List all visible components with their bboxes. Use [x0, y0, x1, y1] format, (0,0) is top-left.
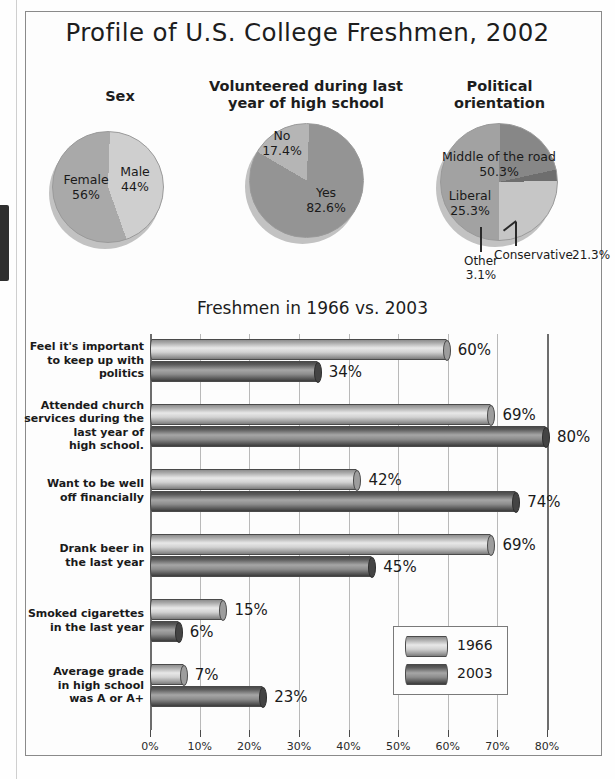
- bar-2003-2: [150, 491, 517, 512]
- pie-pol-slice-middle: Middle of the road 50.3%: [437, 149, 561, 179]
- pie-sex-female-label: Female: [57, 172, 115, 187]
- x-axis-tick-label: 30%: [287, 740, 311, 753]
- gridline: [249, 334, 250, 730]
- pie-vol-slice-yes: Yes 82.6%: [300, 185, 352, 215]
- bar-2003-5: [150, 686, 264, 707]
- x-axis-tick: [150, 730, 151, 737]
- bar-value-label: 6%: [190, 623, 214, 641]
- bar-value-label: 7%: [195, 666, 219, 684]
- x-axis-tick: [299, 730, 300, 737]
- gridline: [349, 334, 350, 730]
- x-axis-tick-label: 10%: [187, 740, 211, 753]
- x-axis-tick: [200, 730, 201, 737]
- x-axis-tick-label: 50%: [386, 740, 410, 753]
- pie-vol-yes-label: Yes: [300, 185, 352, 200]
- x-axis-tick-label: 0%: [141, 740, 158, 753]
- x-axis-tick: [547, 730, 548, 737]
- pie-pol-conservative-value: 21.3%: [572, 248, 615, 263]
- legend-swatch-1966: [405, 636, 448, 657]
- category-label-line: Attended church: [22, 399, 144, 413]
- category-label-line: Average grade: [22, 665, 144, 679]
- category-label-line: in the last year: [22, 621, 144, 635]
- category-label-line: last year of: [22, 426, 144, 440]
- x-axis-tick-label: 40%: [336, 740, 360, 753]
- page-edge-artifact: [0, 205, 9, 281]
- bar-value-label: 60%: [458, 341, 491, 359]
- bar-end-cap: [314, 362, 322, 383]
- legend-label-2003: 2003: [457, 665, 493, 681]
- category-label-line: services during the: [22, 412, 144, 426]
- legend-swatch-2003: [405, 664, 448, 685]
- figure-root: Profile of U.S. College Freshmen, 2002 S…: [0, 0, 615, 779]
- pie-vol-yes-value: 82.6%: [300, 200, 352, 215]
- page-margin-line: [16, 0, 17, 779]
- x-axis-tick: [448, 730, 449, 737]
- plot-axis-right: [547, 334, 549, 730]
- bar-value-label: 34%: [329, 363, 362, 381]
- pie-pol-liberal-value: 25.3%: [441, 203, 499, 218]
- category-label-group: Average gradein high schoolwas A or A+: [22, 665, 144, 706]
- bar-end-cap: [180, 665, 188, 686]
- bar-chart-title: Freshmen in 1966 vs. 2003: [25, 298, 600, 318]
- category-label-line: to keep up with: [22, 354, 144, 368]
- bar-end-cap: [175, 622, 183, 643]
- bar-1966-2: [150, 469, 358, 490]
- pie-title-political: Political orientation: [412, 78, 587, 112]
- pie-sex-slice-female: Female 56%: [57, 172, 115, 202]
- x-axis-tick-label: 70%: [485, 740, 509, 753]
- x-axis-tick-label: 20%: [237, 740, 261, 753]
- pie-pol-disc: [440, 123, 558, 241]
- bar-value-label: 23%: [274, 688, 307, 706]
- category-label-line: off financially: [22, 491, 144, 505]
- pie-pol-conservative-leader: [515, 222, 517, 246]
- category-label-group: Smoked cigarettesin the last year: [22, 607, 144, 634]
- bar-1966-5: [150, 664, 185, 685]
- category-label-line: Want to be well: [22, 477, 144, 491]
- x-axis-tick-label: 60%: [436, 740, 460, 753]
- bar-value-label: 74%: [527, 493, 560, 511]
- chart-legend: 1966 2003: [393, 626, 508, 695]
- bar-1966-3: [150, 534, 492, 555]
- pie-pol-other-leader: [480, 227, 482, 252]
- bar-value-label: 45%: [383, 558, 416, 576]
- category-label-line: politics: [22, 367, 144, 381]
- category-label-line: was A or A+: [22, 692, 144, 706]
- bar-value-label: 80%: [557, 428, 590, 446]
- pie-sex-slice-male: Male 44%: [113, 164, 157, 194]
- legend-label-1966: 1966: [457, 637, 493, 653]
- bar-value-label: 69%: [502, 536, 535, 554]
- pie-pol-middle-label: Middle of the road: [437, 149, 561, 164]
- bar-1966-4: [150, 599, 224, 620]
- category-label-group: Feel it's importantto keep up withpoliti…: [22, 340, 144, 381]
- x-axis-tick: [249, 730, 250, 737]
- bar-value-label: 69%: [502, 406, 535, 424]
- x-axis-tick: [497, 730, 498, 737]
- pie-title-political-line1: Political: [412, 78, 587, 95]
- x-axis-tick-label: 80%: [535, 740, 559, 753]
- pie-title-sex: Sex: [45, 88, 195, 105]
- category-label-line: Smoked cigarettes: [22, 607, 144, 621]
- bar-end-cap: [443, 340, 451, 361]
- pie-title-volunteered-line1: Volunteered during last: [208, 78, 404, 95]
- x-axis-tick: [349, 730, 350, 737]
- pie-vol-slice-no: No 17.4%: [258, 128, 306, 158]
- pie-pol-liberal-label: Liberal: [441, 188, 499, 203]
- gridline: [299, 334, 300, 730]
- pie-title-political-line2: orientation: [412, 95, 587, 112]
- bar-2003-3: [150, 556, 373, 577]
- pie-vol-no-value: 17.4%: [258, 143, 306, 158]
- pie-title-volunteered-line2: year of high school: [208, 95, 404, 112]
- bar-value-label: 42%: [368, 471, 401, 489]
- pie-sex-male-value: 44%: [113, 179, 157, 194]
- bar-1966-0: [150, 339, 448, 360]
- pie-title-volunteered: Volunteered during last year of high sch…: [208, 78, 404, 112]
- pie-vol-no-label: No: [258, 128, 306, 143]
- x-axis-tick: [398, 730, 399, 737]
- bar-1966-1: [150, 404, 492, 425]
- pie-sex-female-value: 56%: [57, 187, 115, 202]
- bar-2003-4: [150, 621, 180, 642]
- legend-entry-2003: 2003: [405, 664, 503, 685]
- bar-value-label: 15%: [234, 601, 267, 619]
- pie-sex-male-label: Male: [113, 164, 157, 179]
- pie-pol-other-label: Other: [455, 254, 507, 269]
